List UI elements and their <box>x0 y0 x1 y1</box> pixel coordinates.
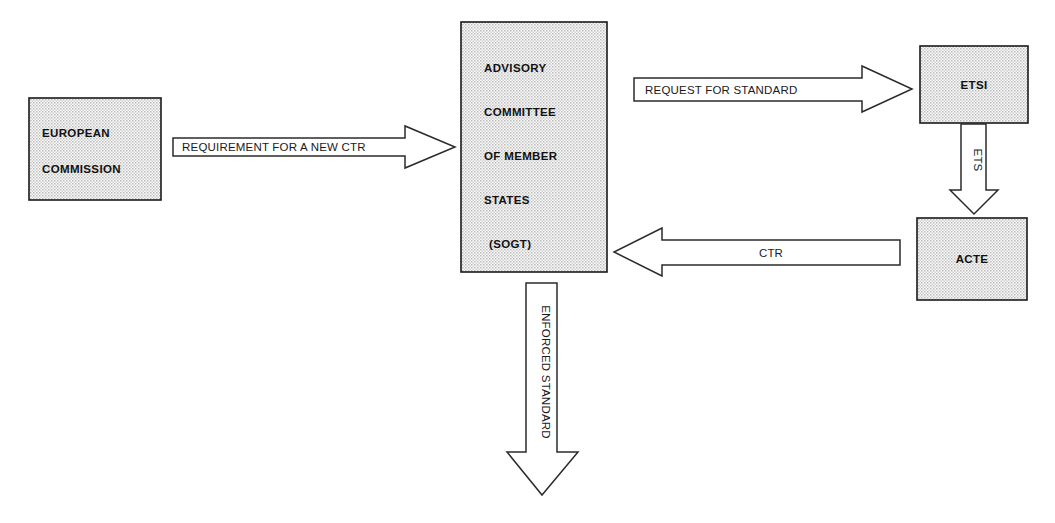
european-commission-label-line-1: EUROPEAN <box>42 127 110 139</box>
node-advisory-committee[interactable]: ADVISORY COMMITTEE OF MEMBER STATES (SOG… <box>461 22 607 272</box>
flow-diagram: EUROPEAN COMMISSION ADVISORY COMMITTEE O… <box>0 0 1055 523</box>
request-for-standard-label: REQUEST FOR STANDARD <box>645 84 797 96</box>
arrow-ets[interactable]: ETS <box>950 124 998 214</box>
advisory-committee-box <box>461 22 607 272</box>
arrow-request-for-standard[interactable]: REQUEST FOR STANDARD <box>634 66 912 112</box>
advisory-committee-label-line-5: (SOGT) <box>489 238 531 250</box>
european-commission-box <box>29 98 161 200</box>
advisory-committee-label-line-2: COMMITTEE <box>484 106 556 118</box>
arrow-requirement-for-new-ctr[interactable]: REQUIREMENT FOR A NEW CTR <box>173 126 455 168</box>
advisory-committee-label-line-1: ADVISORY <box>484 62 546 74</box>
node-acte[interactable]: ACTE <box>917 218 1027 300</box>
node-etsi[interactable]: ETSI <box>920 46 1028 123</box>
etsi-label: ETSI <box>961 79 988 91</box>
requirement-for-new-ctr-label: REQUIREMENT FOR A NEW CTR <box>182 141 366 153</box>
ets-label: ETS <box>972 149 984 172</box>
european-commission-label-line-2: COMMISSION <box>42 163 121 175</box>
advisory-committee-label-line-4: STATES <box>484 194 530 206</box>
arrow-enforced-standard[interactable]: ENFORCED STANDARD <box>507 283 578 495</box>
node-european-commission[interactable]: EUROPEAN COMMISSION <box>29 98 161 200</box>
acte-label: ACTE <box>956 253 989 265</box>
ctr-arrow-shape <box>614 228 900 276</box>
arrow-ctr[interactable]: CTR <box>614 228 900 276</box>
enforced-standard-label: ENFORCED STANDARD <box>540 305 552 439</box>
advisory-committee-label-line-3: OF MEMBER <box>484 150 558 162</box>
flow-diagram-canvas: EUROPEAN COMMISSION ADVISORY COMMITTEE O… <box>0 0 1055 523</box>
ctr-label: CTR <box>759 247 783 259</box>
